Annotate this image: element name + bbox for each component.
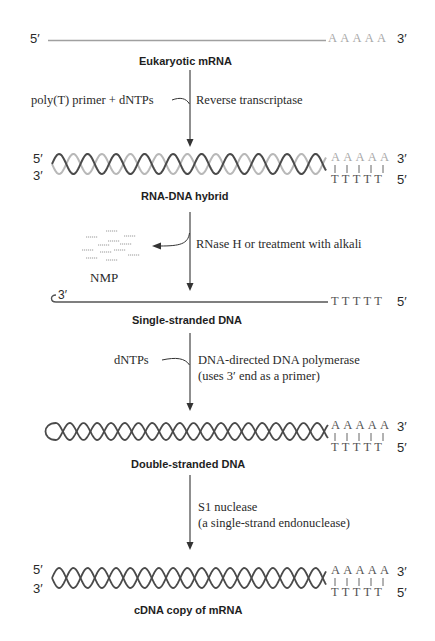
cdna-poly-t: TTTTT	[331, 585, 385, 600]
cdna-3prime-end: 3′	[33, 581, 43, 596]
cdna-right-3prime: 3′	[397, 564, 407, 579]
step4-arrow	[0, 0, 435, 641]
cdna-right-5prime: 5′	[397, 585, 407, 600]
cdna-poly-a: AAAAA	[331, 563, 392, 578]
stage-label-cdna: cDNA copy of mRNA	[134, 604, 242, 616]
step4-enzyme-line1: S1 nuclease	[198, 500, 257, 515]
step4-enzyme-line2: (a single-strand endonuclease)	[198, 516, 350, 531]
cdna-helix	[50, 564, 330, 592]
cdna-5prime-end: 5′	[33, 562, 43, 577]
